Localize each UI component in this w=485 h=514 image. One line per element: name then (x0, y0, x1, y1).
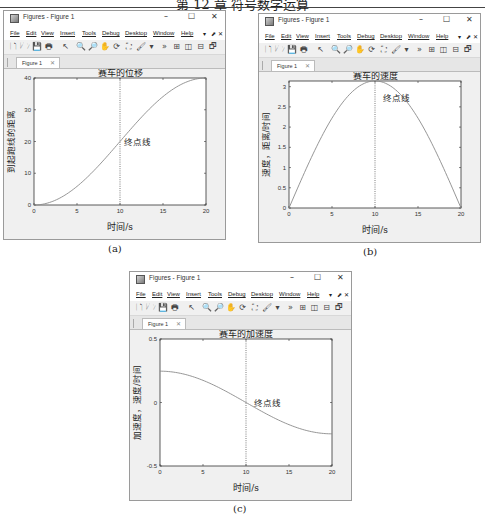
close-button[interactable]: ✕ (211, 12, 218, 21)
new-figure-icon[interactable]: 🗋 (134, 303, 143, 312)
rotate-icon[interactable]: ⟳ (238, 303, 247, 312)
pointer-icon[interactable]: ↖ (61, 42, 70, 51)
menu-help[interactable]: Help (181, 30, 193, 36)
brush-icon[interactable]: 🖌 (262, 303, 271, 312)
zoom-in-icon[interactable]: 🔍 (202, 303, 211, 312)
save-icon[interactable]: 💾 (287, 45, 296, 54)
new-figure-icon[interactable]: 🗋 (8, 42, 17, 51)
undock-icon[interactable]: ⬈ (466, 33, 471, 40)
window-titlebar[interactable]: Figures - Figure 1–☐✕ (259, 14, 480, 30)
menu-help[interactable]: Help (436, 33, 448, 39)
menu-window[interactable]: Window (153, 30, 174, 36)
top-bottom-icon[interactable]: ◫ (439, 45, 448, 54)
menu-insert[interactable]: Insert (186, 291, 201, 297)
tab-figure-1[interactable]: Figure 1✕ (16, 57, 60, 68)
minimize-button[interactable]: – (290, 273, 294, 282)
pointer-icon[interactable]: ↖ (316, 45, 325, 54)
float-icon[interactable]: ⊟ (322, 303, 331, 312)
data-cursor-icon[interactable]: ⛶ (379, 45, 388, 54)
undock-icon[interactable]: ⬈ (337, 291, 342, 298)
maximize-button[interactable]: ☐ (443, 15, 450, 24)
zoom-in-icon[interactable]: 🔍 (331, 45, 340, 54)
menu-debug[interactable]: Debug (228, 291, 246, 297)
data-cursor-icon[interactable]: ⛶ (250, 303, 259, 312)
menu-window[interactable]: Window (279, 291, 300, 297)
menu-desktop[interactable]: Desktop (380, 33, 402, 39)
save-icon[interactable]: 💾 (158, 303, 167, 312)
minimize-button[interactable]: – (164, 12, 168, 21)
rotate-icon[interactable]: ⟳ (112, 42, 121, 51)
left-right-icon[interactable]: ⊞ (172, 42, 181, 51)
tab-figure-1[interactable]: Figure 1✕ (271, 60, 315, 71)
tab-close-icon[interactable]: ✕ (305, 61, 310, 71)
left-right-icon[interactable]: ⊞ (298, 303, 307, 312)
tile-icon[interactable]: » (286, 303, 295, 312)
close-button[interactable]: ✕ (337, 273, 344, 282)
menu-tools[interactable]: Tools (337, 33, 351, 39)
menu-view[interactable]: View (296, 33, 309, 39)
menu-edit[interactable]: Edit (152, 291, 162, 297)
menu-overflow-icon[interactable]: ▾ (458, 33, 461, 40)
top-bottom-icon[interactable]: ◫ (184, 42, 193, 51)
print-icon[interactable]: 🖶 (170, 303, 179, 312)
menu-insert[interactable]: Insert (315, 33, 330, 39)
open-icon[interactable]: 🗁 (275, 45, 284, 54)
print-icon[interactable]: 🖶 (44, 42, 53, 51)
menu-desktop[interactable]: Desktop (125, 30, 147, 36)
menu-tools[interactable]: Tools (82, 30, 96, 36)
menu-desktop[interactable]: Desktop (251, 291, 273, 297)
menu-edit[interactable]: Edit (281, 33, 291, 39)
pan-icon[interactable]: ✋ (355, 45, 364, 54)
maximize-button[interactable]: ☐ (188, 12, 195, 21)
menu-window[interactable]: Window (408, 33, 429, 39)
menu-overflow-icon[interactable]: ▾ (329, 291, 332, 298)
minimize-button[interactable]: – (419, 15, 423, 24)
brush-icon[interactable]: 🖌 (136, 42, 145, 51)
menu-debug[interactable]: Debug (102, 30, 120, 36)
tab-close-icon[interactable]: ✕ (176, 319, 181, 329)
menu-debug[interactable]: Debug (357, 33, 375, 39)
tile-icon[interactable]: » (415, 45, 424, 54)
axes-1[interactable]: 赛车的位移05101520010203040时间/s到起跑线的距离终点线 (4, 69, 227, 241)
more-icon[interactable]: ▾ (147, 42, 156, 51)
close-doc-icon[interactable]: ✕ (344, 291, 349, 298)
data-cursor-icon[interactable]: ⛶ (124, 42, 133, 51)
zoom-in-icon[interactable]: 🔍 (76, 42, 85, 51)
maximize-icon[interactable]: 🗗 (334, 303, 343, 312)
tile-icon[interactable]: » (160, 42, 169, 51)
save-icon[interactable]: 💾 (32, 42, 41, 51)
close-doc-icon[interactable]: ✕ (218, 30, 223, 37)
float-icon[interactable]: ⊟ (451, 45, 460, 54)
maximize-button[interactable]: ☐ (314, 273, 321, 282)
zoom-out-icon[interactable]: 🔎 (88, 42, 97, 51)
zoom-out-icon[interactable]: 🔎 (343, 45, 352, 54)
menu-help[interactable]: Help (307, 291, 319, 297)
menu-tools[interactable]: Tools (208, 291, 222, 297)
tab-close-icon[interactable]: ✕ (50, 58, 55, 68)
window-titlebar[interactable]: Figures - Figure 1–☐✕ (130, 272, 351, 288)
undock-icon[interactable]: ⬈ (211, 30, 216, 37)
maximize-icon[interactable]: 🗗 (463, 45, 472, 54)
menu-edit[interactable]: Edit (26, 30, 36, 36)
more-icon[interactable]: ▾ (273, 303, 282, 312)
menu-file[interactable]: File (10, 30, 20, 36)
more-icon[interactable]: ▾ (402, 45, 411, 54)
dock-handle[interactable] (133, 319, 138, 328)
rotate-icon[interactable]: ⟳ (367, 45, 376, 54)
new-figure-icon[interactable]: 🗋 (263, 45, 272, 54)
top-bottom-icon[interactable]: ◫ (310, 303, 319, 312)
open-icon[interactable]: 🗁 (20, 42, 29, 51)
dock-handle[interactable] (262, 61, 267, 70)
pointer-icon[interactable]: ↖ (187, 303, 196, 312)
axes-2[interactable]: 赛车的速度0510152000.511.522.53时间/s速度，距离/时间终点… (259, 72, 482, 244)
pan-icon[interactable]: ✋ (100, 42, 109, 51)
menu-insert[interactable]: Insert (60, 30, 75, 36)
dock-handle[interactable] (7, 58, 12, 67)
menu-file[interactable]: File (265, 33, 275, 39)
zoom-out-icon[interactable]: 🔎 (214, 303, 223, 312)
menu-file[interactable]: File (136, 291, 146, 297)
print-icon[interactable]: 🖶 (299, 45, 308, 54)
open-icon[interactable]: 🗁 (146, 303, 155, 312)
axes-3[interactable]: 赛车的加速度05101520-0.500.5时间/s加速度，速度/时间终点线 (130, 330, 353, 502)
float-icon[interactable]: ⊟ (196, 42, 205, 51)
